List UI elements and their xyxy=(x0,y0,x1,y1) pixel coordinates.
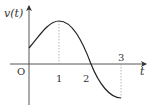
x-axis-label: t xyxy=(140,65,145,78)
origin-label: O xyxy=(17,66,25,77)
tick-label-1: 1 xyxy=(56,73,62,84)
y-axis-label: v(t) xyxy=(4,7,23,20)
tick-label-2: 2 xyxy=(83,73,89,84)
tick-label-3: 3 xyxy=(118,52,124,63)
velocity-curve xyxy=(29,21,121,98)
velocity-graph: v(t) t O 1 2 3 xyxy=(0,0,148,111)
